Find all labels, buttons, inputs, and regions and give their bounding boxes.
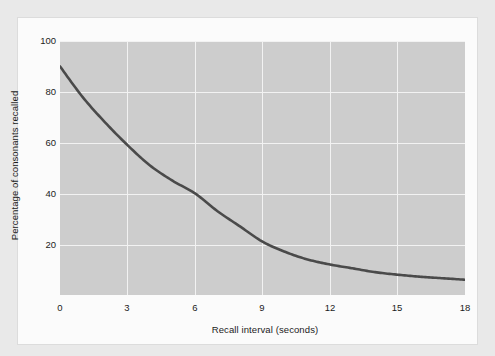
x-axis-title: Recall interval (seconds) <box>140 324 390 335</box>
y-tick-label-40: 40 <box>26 188 56 199</box>
x-tick-label-18: 18 <box>450 302 480 313</box>
x-tick-label-6: 6 <box>180 302 210 313</box>
y-tick-label-20: 20 <box>26 239 56 250</box>
x-tick-label-0: 0 <box>45 302 75 313</box>
recall-decay-curve <box>60 41 465 295</box>
plot-area <box>60 41 465 295</box>
x-tick-label-15: 15 <box>382 302 412 313</box>
x-tick-label-12: 12 <box>315 302 345 313</box>
x-tick-label-9: 9 <box>247 302 277 313</box>
y-tick-label-100: 100 <box>26 35 56 46</box>
forgetting-curve-chart: Percentage of consonants recalled Recall… <box>0 0 495 356</box>
x-tick-label-3: 3 <box>112 302 142 313</box>
y-axis-title: Percentage of consonants recalled <box>9 86 20 246</box>
y-tick-label-80: 80 <box>26 86 56 97</box>
y-tick-label-60: 60 <box>26 137 56 148</box>
